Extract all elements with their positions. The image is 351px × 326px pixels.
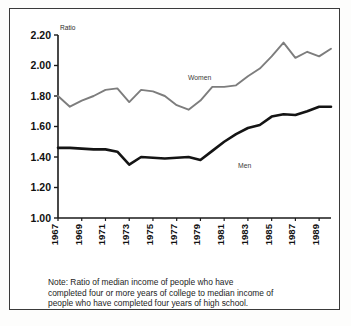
x-tick-label: 1971 [96, 223, 107, 245]
chart-note: Note: Ratio of median income of people w… [48, 277, 338, 309]
x-tick-label: 1983 [239, 224, 250, 245]
x-tick-label: 1985 [263, 223, 274, 245]
chart-figure: Ratio 1.001.201.401.601.802.002.20 19671… [0, 0, 351, 326]
y-tick-label: 2.00 [31, 59, 52, 71]
series-label-men: Men [238, 162, 251, 169]
x-tick-label: 1977 [168, 224, 179, 245]
y-tick-label: 1.20 [31, 181, 52, 193]
x-tick-labels: 1967196919711973197519771979198119831985… [49, 218, 321, 245]
y-tick-label: 2.20 [31, 29, 52, 41]
note-line-3: people who have completed four years of … [48, 298, 338, 309]
y-tick-label: 1.60 [31, 120, 52, 132]
note-line-1: Note: Ratio of median income of people w… [48, 277, 338, 288]
note-line-2: completed four or more years of college … [48, 288, 338, 299]
chart-frame: Ratio 1.001.201.401.601.802.002.20 19671… [9, 8, 340, 310]
income-ratio-line-chart: Ratio 1.001.201.401.601.802.002.20 19671… [10, 9, 339, 309]
x-tick-label: 1987 [286, 224, 297, 245]
x-tick-label: 1969 [73, 224, 84, 245]
x-tick-label: 1975 [144, 223, 155, 245]
data-series-group [58, 43, 331, 165]
series-label-women: Women [188, 74, 212, 81]
y-tick-label: 1.40 [31, 151, 52, 163]
y-tick-label: 1.80 [31, 90, 52, 102]
series-line-men [58, 107, 331, 165]
x-tick-label: 1967 [49, 224, 60, 245]
y-tick-label: 1.00 [31, 212, 52, 224]
x-tick-label: 1979 [191, 224, 202, 245]
y-tick-labels: 1.001.201.401.601.802.002.20 [31, 29, 58, 224]
y-axis-title: Ratio [60, 24, 76, 31]
x-tick-label: 1973 [120, 224, 131, 245]
x-tick-label: 1981 [215, 223, 226, 245]
x-tick-label: 1989 [310, 224, 321, 245]
